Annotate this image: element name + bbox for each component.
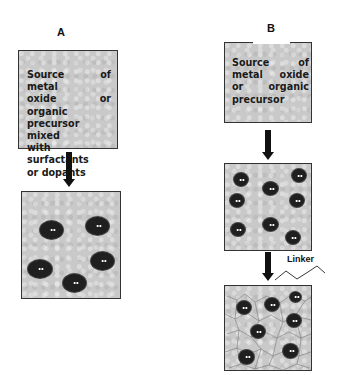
- nanoparticle-icon: [237, 301, 251, 314]
- linker-zigzag-icon: [275, 264, 325, 284]
- nanoparticle-icon: [286, 231, 300, 244]
- nanoparticle-icon: [91, 252, 114, 270]
- text-line: precursor mixed: [27, 118, 111, 142]
- nanoparticle-icon: [63, 274, 86, 292]
- panel-a-particle-box: [21, 191, 121, 299]
- text-line: metal oxide: [232, 69, 309, 81]
- nanoparticle-icon: [292, 169, 306, 182]
- nanoparticle-icon: [263, 182, 278, 195]
- panel-b-precursor-box: Source of metal oxide or organic precurs…: [224, 42, 312, 123]
- nanoparticle-icon: [40, 221, 63, 239]
- nanoparticle-icon: [86, 217, 109, 235]
- panel-b-linked-framework-box: [224, 285, 312, 371]
- text-line: Source of: [232, 57, 309, 69]
- top-border-gap: [253, 41, 290, 44]
- nanoparticle-icon: [265, 298, 279, 311]
- panel-a-precursor-box: Source of metal oxide or organic precurs…: [18, 50, 118, 149]
- nanoparticle-icon: [28, 260, 52, 278]
- nanoparticle-icon: [263, 218, 278, 231]
- nanoparticle-icon: [290, 194, 304, 207]
- panel-b-particle-box: [224, 163, 312, 251]
- nanoparticle-icon: [283, 344, 298, 358]
- nanoparticle-icon: [234, 173, 248, 186]
- panel-b-precursor-text: Source of metal oxide or organic precurs…: [232, 57, 309, 106]
- nanoparticle-icon: [231, 223, 245, 236]
- linker-label: Linker: [287, 254, 314, 264]
- text-line: or organic: [232, 81, 309, 93]
- panel-a-label: A: [57, 26, 65, 38]
- nanoparticle-icon: [251, 325, 265, 338]
- panel-b-label: B: [267, 22, 275, 34]
- text-line: oxide or organic: [27, 93, 111, 117]
- nanoparticle-icon: [290, 292, 301, 302]
- nanoparticle-icon: [287, 314, 301, 327]
- text-line: precursor: [232, 94, 309, 106]
- nanoparticle-icon: [230, 194, 244, 207]
- text-line: Source of metal: [27, 69, 111, 93]
- nanoparticle-icon: [239, 350, 254, 364]
